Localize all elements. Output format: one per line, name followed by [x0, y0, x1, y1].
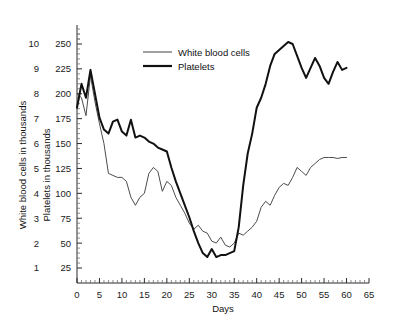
series-line-platelets	[77, 42, 347, 257]
legend-label-white-blood-cells: White blood cells	[178, 47, 250, 58]
y-left-tick-label: 10	[28, 38, 39, 49]
y-axis-left-title: White blood cells in thousands	[17, 101, 28, 230]
x-tick-label: 60	[341, 289, 352, 300]
x-tick-label: 15	[139, 289, 150, 300]
y-inner-tick-label: 100	[55, 188, 71, 199]
x-tick-label: 20	[162, 289, 173, 300]
x-tick-label: 30	[206, 289, 217, 300]
y-inner-tick-label: 25	[60, 262, 71, 273]
y-left-tick-label: 7	[34, 113, 39, 124]
chart-container: 12345678910 255075100125150175200225250 …	[0, 0, 395, 330]
y-left-tick-label: 1	[34, 262, 39, 273]
y-left-tick-label: 3	[34, 213, 39, 224]
y-left-tick-label: 8	[34, 88, 39, 99]
x-tick-label: 25	[184, 289, 195, 300]
axis-group	[77, 25, 369, 283]
y-axis-left-tick-labels: 12345678910	[28, 38, 39, 273]
line-chart: 12345678910 255075100125150175200225250 …	[0, 0, 395, 330]
y-inner-tick-label: 175	[55, 113, 71, 124]
x-axis-ticks	[77, 278, 369, 283]
x-tick-label: 40	[251, 289, 262, 300]
chart-legend: White blood cells Platelets	[143, 47, 250, 72]
x-axis-title: Days	[212, 303, 234, 314]
y-left-tick-label: 4	[34, 188, 39, 199]
y-left-tick-label: 9	[34, 63, 39, 74]
y-inner-tick-label: 50	[60, 238, 71, 249]
x-tick-label: 55	[319, 289, 330, 300]
x-tick-label: 65	[364, 289, 375, 300]
y-left-tick-label: 2	[34, 238, 39, 249]
legend-label-platelets: Platelets	[178, 61, 215, 72]
x-tick-label: 5	[97, 289, 102, 300]
x-tick-label: 45	[274, 289, 285, 300]
y-inner-tick-label: 250	[55, 38, 71, 49]
y-left-tick-label: 5	[34, 163, 39, 174]
y-inner-tick-label: 75	[60, 213, 71, 224]
y-axis-inner-tick-labels: 255075100125150175200225250	[55, 38, 71, 273]
x-tick-label: 50	[296, 289, 307, 300]
x-tick-label: 0	[74, 289, 79, 300]
y-inner-tick-label: 150	[55, 138, 71, 149]
y-left-tick-label: 6	[34, 138, 39, 149]
x-tick-label: 10	[117, 289, 128, 300]
y-inner-tick-label: 225	[55, 63, 71, 74]
y-axis-inner-title: Platelets in thousands	[41, 128, 52, 221]
y-axis-ticks	[77, 29, 82, 268]
x-axis-tick-labels: 05101520253035404550556065	[74, 289, 374, 300]
x-tick-label: 35	[229, 289, 240, 300]
series-line-white-blood-cells	[77, 76, 347, 247]
y-inner-tick-label: 125	[55, 163, 71, 174]
y-inner-tick-label: 200	[55, 88, 71, 99]
